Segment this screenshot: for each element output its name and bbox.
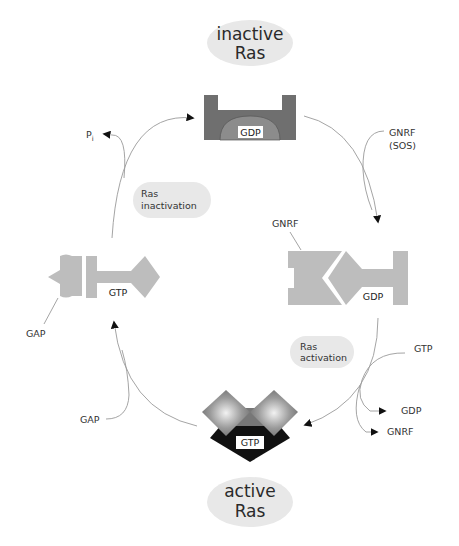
ras-activation-bubble: Ras activation xyxy=(290,336,354,368)
pi-label: Pi xyxy=(86,129,94,143)
svg-text:activation: activation xyxy=(300,352,347,363)
active-ras-line1: active xyxy=(224,481,276,501)
nucleotide-gdp-top: GDP xyxy=(240,127,261,138)
gnrf-sos-label-line2: (SOS) xyxy=(389,140,416,151)
gnrf-sos-label-line1: GNRF xyxy=(389,127,416,138)
svg-text:Ras: Ras xyxy=(300,341,317,352)
active-ras-line2: Ras xyxy=(235,501,266,521)
gap-input-label: GAP xyxy=(80,414,100,425)
svg-text:Ras: Ras xyxy=(141,188,158,199)
gnrf-ras-complex-icon: GDP xyxy=(288,251,408,305)
gtp-in-label: GTP xyxy=(414,343,433,354)
gap-bound-leader xyxy=(44,298,58,324)
gtp-in-gdp-out-arrow xyxy=(360,353,405,411)
nucleotide-gtp-left: GTP xyxy=(109,287,128,298)
gnrf-out-label: GNRF xyxy=(387,426,414,437)
inactive-ras-line2: Ras xyxy=(235,43,266,63)
gap-bound-label: GAP xyxy=(26,328,46,339)
nucleotide-gdp-right: GDP xyxy=(363,291,384,302)
inactive-ras-protein-icon: GDP xyxy=(204,95,296,140)
ras-inactivation-bubble: Ras inactivation xyxy=(133,182,211,218)
inactive-ras-line1: inactive xyxy=(216,24,283,44)
gnrf-bound-leader xyxy=(290,232,301,250)
arrow-to-gap-complex xyxy=(114,322,197,426)
ras-cycle-diagram: inactive Ras GDP GDP GNRF GTP active Ras… xyxy=(0,0,459,546)
nucleotide-gtp-bottom: GTP xyxy=(241,437,260,448)
gdp-out-label: GDP xyxy=(401,405,422,416)
gap-ras-complex-icon: GTP xyxy=(48,255,160,299)
svg-text:inactivation: inactivation xyxy=(141,200,197,211)
gnrf-bound-label: GNRF xyxy=(272,218,299,229)
gap-input-arrow xyxy=(106,350,129,419)
arrow-to-gnrf-complex xyxy=(304,116,378,222)
inactive-ras-label: inactive Ras xyxy=(207,20,293,66)
active-ras-label: active Ras xyxy=(207,477,293,527)
active-ras-protein-icon: GTP xyxy=(202,390,298,462)
pi-release-arrow xyxy=(104,134,125,178)
